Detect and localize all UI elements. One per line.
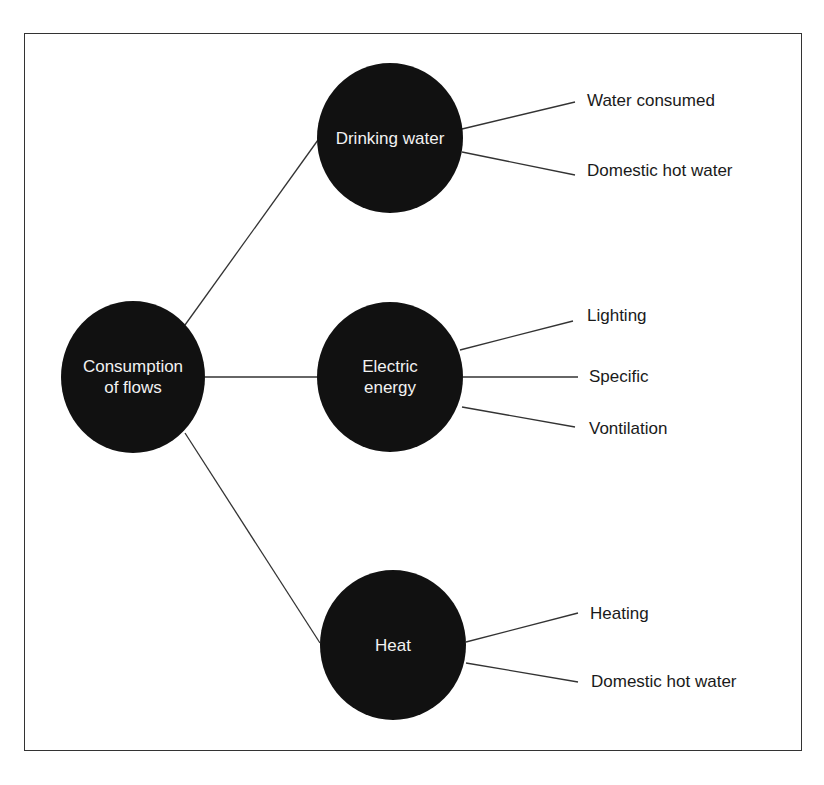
root-node-label-line2: of flows: [83, 377, 183, 398]
edge-electric-lighting: [460, 321, 573, 350]
leaf-lighting: Lighting: [587, 306, 647, 326]
edge-root-drinking-water: [185, 140, 318, 325]
edge-heat-heating: [466, 613, 578, 642]
root-node-label-line1: Consumption: [83, 356, 183, 377]
leaf-heating: Heating: [590, 604, 649, 624]
leaf-water-consumed: Water consumed: [587, 91, 715, 111]
edge-root-heat: [185, 433, 320, 643]
branch-node-electric-energy: Electric energy: [317, 302, 463, 452]
leaf-domestic-hot-water: Domestic hot water: [587, 161, 733, 181]
edge-drinking-water-consumed: [462, 102, 575, 129]
branch-node-label: Drinking water: [336, 128, 445, 149]
branch-node-drinking-water: Drinking water: [317, 63, 463, 213]
branch-node-heat: Heat: [320, 570, 466, 720]
edge-electric-ventilation: [462, 407, 575, 427]
edge-heat-domestic-hot-water: [466, 663, 578, 682]
root-node-consumption-of-flows: Consumption of flows: [61, 301, 205, 453]
branch-node-label-line2: energy: [362, 377, 418, 398]
edge-drinking-domestic-hot-water: [462, 152, 575, 175]
leaf-domestic-hot-water-heat: Domestic hot water: [591, 672, 737, 692]
branch-node-label-line1: Electric: [362, 356, 418, 377]
branch-node-label: Heat: [375, 635, 411, 656]
leaf-ventilation: Vontilation: [589, 419, 667, 439]
leaf-specific: Specific: [589, 367, 649, 387]
